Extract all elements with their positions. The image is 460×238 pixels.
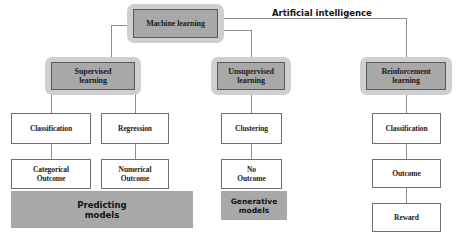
box-no-outcome[interactable]: No Outcome [221, 159, 282, 189]
box-categorical-outcome-line2: Outcome [37, 174, 65, 183]
node-reinforcement-learning-label-line2: learning [392, 76, 420, 85]
node-supervised-learning-label: Supervised learning [75, 67, 112, 86]
banner-predicting-models: Predicting models [11, 191, 193, 228]
box-classification-supervised[interactable]: Classification [11, 113, 91, 144]
box-classification-reinforcement-label: Classification [386, 124, 428, 133]
box-categorical-outcome[interactable]: Categorical Outcome [11, 159, 91, 189]
box-no-outcome-line2: Outcome [237, 174, 265, 183]
connector-ai-horizontal [218, 18, 406, 19]
box-clustering-label: Clustering [235, 124, 268, 133]
box-numerical-outcome-label: Numerical Outcome [119, 165, 152, 183]
box-clustering[interactable]: Clustering [221, 113, 282, 144]
node-machine-learning[interactable]: Machine learning [127, 4, 224, 43]
node-reinforcement-learning-inner: Reinforcement learning [366, 62, 446, 90]
connector-ai-vertical [406, 18, 407, 57]
node-supervised-learning[interactable]: Supervised learning [45, 57, 141, 95]
node-reinforcement-learning-label: Reinforcement learning [381, 67, 430, 86]
node-unsupervised-learning[interactable]: Unsupervised learning [211, 57, 291, 95]
box-classification-supervised-label: Classification [30, 124, 72, 133]
connector-ml-to-unsupervised-vertical [251, 30, 252, 57]
diagram-title-artificial-intelligence: Artificial intelligence [272, 8, 372, 18]
box-regression-label: Regression [118, 124, 152, 133]
banner-predicting-models-line2: models [85, 210, 120, 220]
connector-unsupervised-to-clustering [251, 95, 252, 113]
diagram-canvas: Artificial intelligence Machine learning… [0, 0, 460, 238]
node-unsupervised-learning-inner: Unsupervised learning [217, 62, 285, 90]
connector-clustering-to-no-outcome [251, 144, 252, 159]
connector-ml-to-supervised-vertical [111, 25, 112, 57]
node-supervised-learning-label-line2: learning [79, 76, 107, 85]
box-reward-label: Reward [394, 213, 419, 222]
box-numerical-outcome-line2: Outcome [121, 174, 149, 183]
banner-predicting-models-line1: Predicting [77, 200, 126, 210]
banner-generative-models: Generative models [221, 191, 287, 220]
node-unsupervised-learning-label: Unsupervised learning [228, 67, 273, 86]
node-supervised-learning-label-line1: Supervised [75, 67, 112, 76]
box-outcome-reinforcement[interactable]: Outcome [372, 159, 441, 188]
banner-generative-models-line1: Generative [231, 197, 278, 206]
connector-classification-to-categorical [51, 144, 52, 159]
node-machine-learning-inner: Machine learning [133, 9, 218, 38]
node-unsupervised-learning-label-line2: learning [237, 76, 265, 85]
box-numerical-outcome[interactable]: Numerical Outcome [101, 159, 169, 189]
node-machine-learning-label: Machine learning [146, 19, 205, 29]
box-classification-reinforcement[interactable]: Classification [372, 113, 441, 144]
node-supervised-learning-inner: Supervised learning [51, 62, 135, 90]
box-categorical-outcome-line1: Categorical [33, 165, 69, 174]
node-unsupervised-learning-label-line1: Unsupervised [228, 67, 273, 76]
box-numerical-outcome-line1: Numerical [119, 165, 152, 174]
box-no-outcome-line1: No [247, 165, 256, 174]
connector-reinforcement-to-classification [406, 95, 407, 113]
box-regression[interactable]: Regression [101, 113, 169, 144]
box-reward[interactable]: Reward [372, 203, 441, 232]
box-categorical-outcome-label: Categorical Outcome [33, 165, 69, 183]
node-reinforcement-learning-label-line1: Reinforcement [381, 67, 430, 76]
banner-generative-models-line2: models [239, 206, 269, 215]
banner-predicting-models-label: Predicting models [77, 200, 126, 220]
box-outcome-reinforcement-label: Outcome [392, 169, 420, 178]
box-no-outcome-label: No Outcome [237, 165, 265, 183]
node-reinforcement-learning[interactable]: Reinforcement learning [360, 57, 452, 95]
connector-rl-classification-to-outcome [406, 144, 407, 159]
banner-generative-models-label: Generative models [231, 197, 278, 215]
connector-regression-to-numerical [135, 144, 136, 159]
connector-rl-outcome-to-reward [406, 188, 407, 203]
